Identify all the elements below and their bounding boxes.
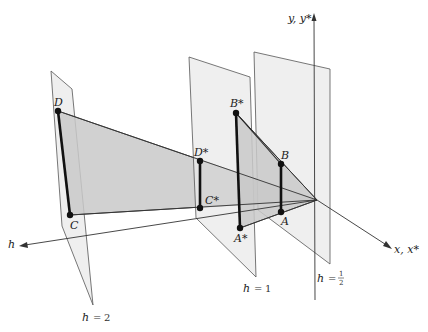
label-astar: A* [233,232,248,245]
label-b: B [280,149,289,162]
y-axis [314,17,315,300]
svg-text:=: = [328,273,336,284]
label-plane-h2: h = 2 [82,311,110,324]
label-plane-h1: h = 1 [243,282,271,295]
label-d: D [53,96,63,109]
label-dstar: D* [193,146,209,159]
svg-text:1: 1 [339,270,343,278]
h-axis-arrow-icon [19,242,28,248]
label-x-axis: x, x* [394,243,419,256]
point-astar [237,225,243,231]
projection-diagram: D C D* C* B* A* B A y, y* x, x* h h = 2 … [0,0,428,332]
point-bstar [233,110,239,116]
svg-text:2: 2 [339,279,343,287]
label-a: A [280,215,289,228]
svg-text:h: h [243,282,250,295]
svg-text:=: = [254,283,262,294]
label-bstar: B* [229,97,244,110]
svg-text:h: h [317,272,324,285]
label-h-axis: h [8,238,15,251]
label-y-axis: y, y* [287,12,312,25]
svg-text:h: h [82,311,89,324]
x-axis-arrow-icon [383,241,392,249]
point-c [67,212,73,218]
label-plane-h-half: h = 1 2 [317,270,344,287]
label-cstar: C* [205,194,219,207]
svg-text:=: = [93,312,101,323]
svg-text:2: 2 [104,312,110,323]
y-axis-arrow-icon [312,13,317,21]
label-c: C [70,219,79,232]
point-cstar [197,205,203,211]
svg-text:1: 1 [265,283,271,294]
